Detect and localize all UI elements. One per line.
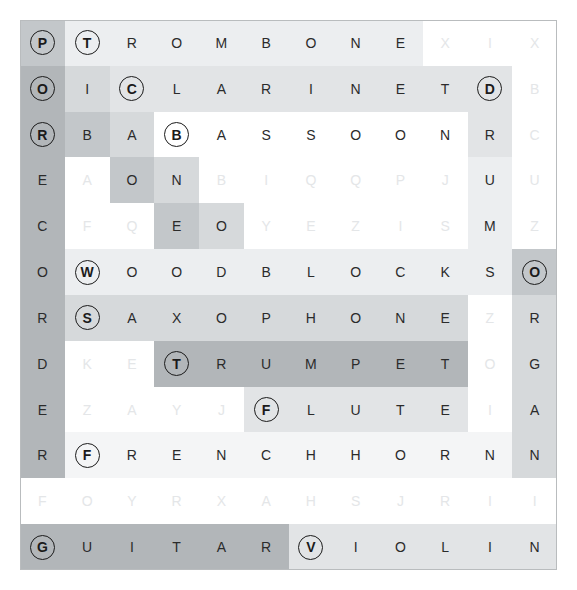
grid-cell-r5c6[interactable]: Y bbox=[244, 203, 289, 249]
grid-cell-r3c5[interactable]: A bbox=[199, 112, 244, 158]
grid-cell-r2c2[interactable]: I bbox=[65, 66, 110, 112]
grid-cell-r9c7[interactable]: L bbox=[289, 387, 334, 433]
grid-cell-r9c5[interactable]: J bbox=[199, 387, 244, 433]
grid-cell-r9c4[interactable]: Y bbox=[154, 387, 199, 433]
grid-cell-r1c2[interactable]: T bbox=[65, 20, 110, 66]
grid-cell-r12c1[interactable]: G bbox=[20, 524, 65, 570]
grid-cell-r2c9[interactable]: E bbox=[378, 66, 423, 112]
grid-cell-r12c3[interactable]: I bbox=[110, 524, 155, 570]
grid-cell-r3c4[interactable]: B bbox=[154, 112, 199, 158]
grid-cell-r7c7[interactable]: H bbox=[289, 295, 334, 341]
grid-cell-r5c7[interactable]: E bbox=[289, 203, 334, 249]
grid-cell-r4c5[interactable]: B bbox=[199, 157, 244, 203]
grid-cell-r7c2[interactable]: S bbox=[65, 295, 110, 341]
grid-cell-r5c11[interactable]: M bbox=[468, 203, 513, 249]
grid-cell-r10c6[interactable]: C bbox=[244, 432, 289, 478]
grid-cell-r1c1[interactable]: P bbox=[20, 20, 65, 66]
grid-cell-r6c12[interactable]: O bbox=[512, 249, 557, 295]
grid-cell-r8c3[interactable]: E bbox=[110, 341, 155, 387]
grid-cell-r2c6[interactable]: R bbox=[244, 66, 289, 112]
grid-cell-r7c8[interactable]: O bbox=[333, 295, 378, 341]
grid-cell-r11c8[interactable]: S bbox=[333, 478, 378, 524]
grid-cell-r10c3[interactable]: R bbox=[110, 432, 155, 478]
grid-cell-r5c1[interactable]: C bbox=[20, 203, 65, 249]
grid-cell-r8c2[interactable]: K bbox=[65, 341, 110, 387]
grid-cell-r9c9[interactable]: T bbox=[378, 387, 423, 433]
grid-cell-r3c12[interactable]: C bbox=[512, 112, 557, 158]
grid-cell-r7c4[interactable]: X bbox=[154, 295, 199, 341]
grid-cell-r6c6[interactable]: B bbox=[244, 249, 289, 295]
grid-cell-r2c11[interactable]: D bbox=[468, 66, 513, 112]
grid-cell-r7c1[interactable]: R bbox=[20, 295, 65, 341]
grid-cell-r4c7[interactable]: Q bbox=[289, 157, 334, 203]
grid-cell-r6c1[interactable]: O bbox=[20, 249, 65, 295]
grid-cell-r4c9[interactable]: P bbox=[378, 157, 423, 203]
grid-cell-r1c5[interactable]: M bbox=[199, 20, 244, 66]
grid-cell-r12c5[interactable]: A bbox=[199, 524, 244, 570]
grid-cell-r7c6[interactable]: P bbox=[244, 295, 289, 341]
grid-cell-r6c10[interactable]: K bbox=[423, 249, 468, 295]
grid-cell-r6c9[interactable]: C bbox=[378, 249, 423, 295]
grid-cell-r1c7[interactable]: O bbox=[289, 20, 334, 66]
grid-cell-r3c7[interactable]: S bbox=[289, 112, 334, 158]
grid-cell-r7c10[interactable]: E bbox=[423, 295, 468, 341]
grid-cell-r2c10[interactable]: T bbox=[423, 66, 468, 112]
grid-cell-r4c6[interactable]: I bbox=[244, 157, 289, 203]
grid-cell-r6c2[interactable]: W bbox=[65, 249, 110, 295]
grid-cell-r8c11[interactable]: O bbox=[468, 341, 513, 387]
grid-cell-r11c1[interactable]: F bbox=[20, 478, 65, 524]
grid-cell-r2c3[interactable]: C bbox=[110, 66, 155, 112]
grid-cell-r10c8[interactable]: H bbox=[333, 432, 378, 478]
grid-cell-r3c1[interactable]: R bbox=[20, 112, 65, 158]
grid-cell-r5c8[interactable]: Z bbox=[333, 203, 378, 249]
grid-cell-r1c9[interactable]: E bbox=[378, 20, 423, 66]
grid-cell-r8c9[interactable]: E bbox=[378, 341, 423, 387]
grid-cell-r3c3[interactable]: A bbox=[110, 112, 155, 158]
grid-cell-r8c7[interactable]: M bbox=[289, 341, 334, 387]
grid-cell-r6c3[interactable]: O bbox=[110, 249, 155, 295]
grid-cell-r8c1[interactable]: D bbox=[20, 341, 65, 387]
grid-cell-r11c11[interactable]: I bbox=[468, 478, 513, 524]
grid-cell-r11c4[interactable]: R bbox=[154, 478, 199, 524]
grid-cell-r10c10[interactable]: R bbox=[423, 432, 468, 478]
grid-cell-r12c7[interactable]: V bbox=[289, 524, 334, 570]
grid-cell-r12c4[interactable]: T bbox=[154, 524, 199, 570]
grid-cell-r2c5[interactable]: A bbox=[199, 66, 244, 112]
grid-cell-r3c11[interactable]: R bbox=[468, 112, 513, 158]
grid-cell-r2c12[interactable]: B bbox=[512, 66, 557, 112]
grid-cell-r1c10[interactable]: X bbox=[423, 20, 468, 66]
grid-cell-r8c12[interactable]: G bbox=[512, 341, 557, 387]
grid-cell-r11c3[interactable]: Y bbox=[110, 478, 155, 524]
grid-cell-r10c7[interactable]: H bbox=[289, 432, 334, 478]
grid-cell-r9c6[interactable]: F bbox=[244, 387, 289, 433]
grid-cell-r4c3[interactable]: O bbox=[110, 157, 155, 203]
grid-cell-r7c5[interactable]: O bbox=[199, 295, 244, 341]
grid-cell-r10c2[interactable]: F bbox=[65, 432, 110, 478]
grid-cell-r3c6[interactable]: S bbox=[244, 112, 289, 158]
grid-cell-r10c9[interactable]: O bbox=[378, 432, 423, 478]
grid-cell-r5c4[interactable]: E bbox=[154, 203, 199, 249]
grid-cell-r12c12[interactable]: N bbox=[512, 524, 557, 570]
grid-cell-r2c1[interactable]: O bbox=[20, 66, 65, 112]
grid-cell-r5c12[interactable]: Z bbox=[512, 203, 557, 249]
grid-cell-r5c2[interactable]: F bbox=[65, 203, 110, 249]
grid-cell-r6c8[interactable]: O bbox=[333, 249, 378, 295]
grid-cell-r1c4[interactable]: O bbox=[154, 20, 199, 66]
grid-cell-r1c12[interactable]: X bbox=[512, 20, 557, 66]
grid-cell-r12c6[interactable]: R bbox=[244, 524, 289, 570]
grid-cell-r2c7[interactable]: I bbox=[289, 66, 334, 112]
grid-cell-r10c5[interactable]: N bbox=[199, 432, 244, 478]
grid-cell-r6c5[interactable]: D bbox=[199, 249, 244, 295]
grid-cell-r11c5[interactable]: X bbox=[199, 478, 244, 524]
grid-cell-r4c4[interactable]: N bbox=[154, 157, 199, 203]
grid-cell-r1c11[interactable]: I bbox=[468, 20, 513, 66]
grid-cell-r7c9[interactable]: N bbox=[378, 295, 423, 341]
grid-cell-r8c10[interactable]: T bbox=[423, 341, 468, 387]
grid-cell-r6c4[interactable]: O bbox=[154, 249, 199, 295]
grid-cell-r12c8[interactable]: I bbox=[333, 524, 378, 570]
grid-cell-r10c11[interactable]: N bbox=[468, 432, 513, 478]
grid-cell-r1c3[interactable]: R bbox=[110, 20, 155, 66]
grid-cell-r9c11[interactable]: I bbox=[468, 387, 513, 433]
grid-cell-r3c8[interactable]: O bbox=[333, 112, 378, 158]
grid-cell-r7c3[interactable]: A bbox=[110, 295, 155, 341]
